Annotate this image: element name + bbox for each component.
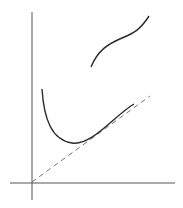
- lower-curve: [42, 89, 134, 143]
- diagram-canvas: [0, 0, 183, 208]
- upper-curve: [91, 16, 149, 67]
- dashed-asymptote-line: [32, 96, 150, 182]
